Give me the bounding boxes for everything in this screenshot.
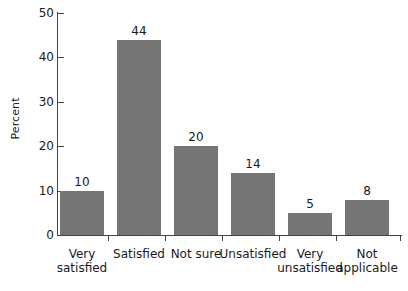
bar-value-not-sure: 20 bbox=[188, 131, 203, 143]
bar-value-satisfied: 44 bbox=[131, 25, 146, 37]
bar-value-very-unsatisfied: 5 bbox=[306, 198, 314, 210]
y-tick-label-0: 0 bbox=[32, 229, 54, 241]
x-category-label-satisfied: Satisfied bbox=[113, 247, 165, 261]
y-axis-line bbox=[57, 12, 58, 236]
bar-chart: Percent 0 10 20 30 40 50 10 44 20 14 5 8… bbox=[0, 0, 408, 291]
y-tick-label-10: 10 bbox=[32, 185, 54, 197]
bar-value-very-satisfied: 10 bbox=[74, 176, 89, 188]
x-tick-mark-1 bbox=[108, 236, 109, 241]
x-category-line1: Not bbox=[356, 247, 377, 261]
x-category-label-not-applicable: Not applicable bbox=[336, 247, 398, 275]
y-axis-title: Percent bbox=[9, 84, 22, 154]
x-tick-mark-2 bbox=[165, 236, 166, 241]
y-tick-label-20: 20 bbox=[32, 140, 54, 152]
y-tick-mark-30 bbox=[58, 102, 64, 103]
y-tick-label-50: 50 bbox=[32, 7, 54, 19]
x-category-label-not-sure: Not sure bbox=[171, 247, 222, 261]
x-tick-mark-3 bbox=[222, 236, 223, 241]
x-category-label-very-unsatisfied: Very unsatisfied bbox=[277, 247, 343, 275]
x-category-line1: Satisfied bbox=[113, 247, 165, 261]
y-tick-label-40: 40 bbox=[32, 51, 54, 63]
x-tick-mark-4 bbox=[279, 236, 280, 241]
x-category-label-very-satisfied: Very satisfied bbox=[57, 247, 107, 275]
bar-value-unsatisfied: 14 bbox=[245, 158, 260, 170]
y-tick-mark-50 bbox=[58, 13, 64, 14]
x-category-line2: satisfied bbox=[57, 261, 107, 275]
x-category-line1: Very bbox=[69, 247, 96, 261]
x-category-line2: applicable bbox=[336, 261, 398, 275]
y-axis-tick-labels: 0 10 20 30 40 50 bbox=[30, 0, 54, 291]
bar-value-not-applicable: 8 bbox=[363, 185, 371, 197]
x-tick-mark-5 bbox=[336, 236, 337, 241]
bar-not-sure bbox=[174, 146, 218, 235]
bar-very-satisfied bbox=[60, 191, 104, 235]
x-category-line1: Very bbox=[297, 247, 324, 261]
bar-unsatisfied bbox=[231, 173, 275, 235]
x-category-line2: unsatisfied bbox=[277, 261, 343, 275]
bar-not-applicable bbox=[345, 200, 389, 236]
bar-very-unsatisfied bbox=[288, 213, 332, 235]
y-tick-mark-20 bbox=[58, 146, 64, 147]
x-tick-mark-6 bbox=[400, 236, 401, 241]
bar-satisfied bbox=[117, 40, 161, 235]
x-category-line1: Not sure bbox=[171, 247, 222, 261]
y-tick-mark-40 bbox=[58, 57, 64, 58]
y-tick-label-30: 30 bbox=[32, 96, 54, 108]
